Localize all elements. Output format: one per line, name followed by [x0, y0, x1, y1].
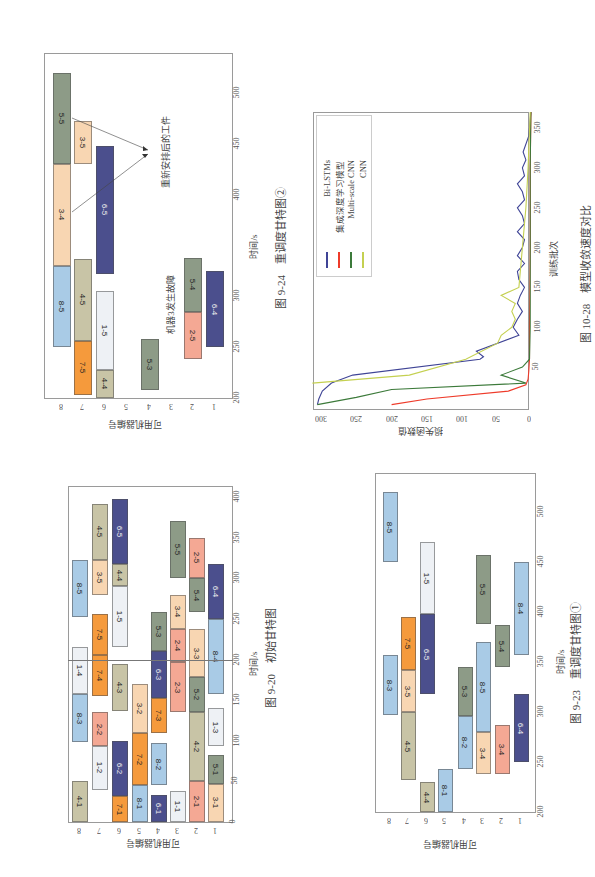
x-tick-label: 500: [536, 506, 545, 518]
gantt-bar-label: 3-4: [498, 744, 507, 756]
gantt-bar: 6-1: [151, 795, 167, 822]
gantt-bar: 5-2: [189, 677, 205, 712]
machine-tick-label: 7: [80, 402, 84, 411]
loss-tick-label: 0: [527, 414, 531, 423]
gantt-bar-label: 6-4: [211, 303, 220, 315]
gantt-bar-label: 8-1: [441, 785, 450, 797]
gantt-bar: 3-2: [132, 684, 148, 733]
gantt-bar-label: 3-5: [79, 137, 88, 149]
gantt-bar: 5-5: [170, 521, 186, 578]
machine-tick-label: 1: [213, 826, 217, 835]
time-marker-line: [68, 660, 233, 661]
legend-label: Multi-scale CNN: [346, 160, 356, 250]
gantt-bar-label: 8-2: [155, 759, 164, 771]
gantt-bar: 4-2: [189, 712, 205, 781]
gantt-bar: 2-1: [189, 781, 205, 822]
loss-tick-label: 300: [315, 414, 327, 423]
machine-tick-label: 2: [499, 816, 503, 825]
gantt-bar-label: 8-5: [479, 681, 488, 693]
gantt-bar: 2-5: [184, 312, 202, 360]
gantt-bar-label: 7-3: [155, 709, 164, 721]
gantt-bar: 5-1: [208, 755, 224, 784]
gantt-bar: 2-3: [170, 662, 186, 712]
epoch-tick-label: 300: [533, 161, 542, 173]
gantt-bar: 1-2: [92, 746, 108, 789]
gantt-bar: 5-3: [141, 339, 159, 390]
gantt-bar: 5-4: [189, 578, 205, 612]
gantt-bar: 7-1: [112, 796, 128, 822]
gantt-bar: 4-5: [401, 712, 416, 780]
gantt-bar: 5-3: [458, 667, 473, 716]
gantt-bar: 6-4: [208, 564, 224, 619]
gantt-bar-label: 2-5: [193, 552, 202, 564]
x-tick-label: 50: [230, 777, 239, 785]
gantt-bar-label: 5-4: [498, 640, 507, 652]
machine-tick-label: 2: [190, 402, 194, 411]
gantt-bar-label: 2-5: [189, 330, 198, 342]
gantt-bar: 1-3: [208, 708, 224, 746]
machine-tick-label: 2: [194, 826, 198, 835]
gantt-bar-label: 8-1: [136, 798, 145, 810]
gantt-bar-label: 7-5: [404, 638, 413, 650]
gantt-bar: 3-4: [476, 732, 491, 774]
gantt-bar-label: 8-5: [58, 301, 67, 313]
x-tick-label: 400: [536, 606, 545, 618]
legend-swatch: [362, 252, 364, 268]
legend-label: Bi-LSTMs: [322, 160, 332, 250]
machine-tick-label: 3: [480, 816, 484, 825]
gantt-bar-label: 7-2: [136, 753, 145, 765]
x-tick-label: 250: [232, 341, 241, 353]
loss-tick-label: 50: [492, 414, 500, 423]
gantt-bar-label: 1-1: [174, 801, 183, 813]
machine-tick-label: 4: [462, 816, 466, 825]
y-axis-label-9-24: 可用机器编号: [95, 418, 175, 431]
gantt-bar-label: 1-5: [116, 611, 125, 623]
gantt-bar-label: 3-4: [174, 606, 183, 618]
machine-tick-label: 4: [156, 826, 160, 835]
gantt-bar: 4-5: [74, 259, 92, 341]
gantt-bar-label: 5-3: [461, 686, 470, 698]
gantt-bar-label: 7-1: [116, 803, 125, 815]
gantt-bar: 8-5: [383, 492, 398, 562]
gantt-bar-label: 5-5: [479, 584, 488, 596]
gantt-bar-label: 2-2: [96, 724, 105, 736]
gantt-bar-label: 8-5: [386, 521, 395, 533]
machine-tick-label: 1: [518, 816, 522, 825]
gantt-bar-label: 3-4: [479, 747, 488, 759]
gantt-bar-label: 3-2: [136, 702, 145, 714]
loss-tick-label: 250: [350, 414, 362, 423]
x-tick-label: 200: [536, 806, 545, 818]
x-tick-label: 350: [232, 531, 241, 543]
gantt-bar: 8-5: [476, 642, 491, 732]
x-tick-label: 0: [228, 820, 237, 824]
loss-tick-label: 100: [456, 414, 468, 423]
legend-swatch: [326, 252, 328, 268]
gantt-bar-label: 4-3: [116, 681, 125, 693]
gantt-bar-label: 3-4: [58, 209, 67, 221]
machine-tick-label: 6: [102, 402, 106, 411]
gantt-bar-label: 4-5: [404, 740, 413, 752]
x-tick-label: 250: [536, 756, 545, 768]
machine-tick-label: 1: [212, 402, 216, 411]
gantt-bar: 7-2: [132, 733, 148, 786]
gantt-bar: 8-4: [208, 619, 224, 694]
x-axis-label-10-28: 训练批次: [547, 234, 560, 284]
gantt-bar: 8-4: [514, 562, 529, 655]
gantt-bar: 8-5: [72, 560, 88, 617]
gantt-bar-label: 5-1: [212, 763, 221, 775]
gantt-bar-label: 6-5: [101, 204, 110, 216]
x-tick-label: 450: [232, 137, 241, 149]
gantt-bar: 5-4: [184, 258, 202, 312]
gantt-bar: 6-4: [514, 694, 529, 762]
gantt-bar: 2-2: [92, 712, 108, 746]
gantt-bar-label: 1-4: [76, 665, 85, 677]
loss-tick-label: 200: [386, 414, 398, 423]
gantt-bar: 6-3: [151, 651, 167, 697]
gantt-bar: 6-2: [112, 741, 128, 796]
figure-caption-9-24: 图 9-24 重调度甘特图②: [272, 183, 288, 313]
gantt-bar-label: 8-4: [517, 603, 526, 615]
legend-swatch: [350, 252, 352, 268]
gantt-bar-label: 2-3: [174, 681, 183, 693]
gantt-bar: 4-4: [420, 782, 435, 812]
gantt-bar: 2-5: [189, 538, 205, 579]
